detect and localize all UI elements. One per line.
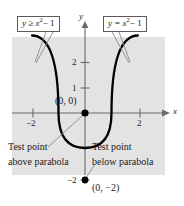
y-tick-label-neg2: −2 (67, 176, 77, 185)
test-above-caption-line1: Test point (8, 142, 48, 152)
point-origin-dot (81, 109, 88, 116)
point-zero-neg-two-dot (82, 177, 89, 184)
equation-label-tail: − 1 (130, 18, 142, 28)
x-tick-label-2: 2 (137, 119, 142, 128)
y-tick-label-2: 2 (72, 58, 77, 67)
shaded-region (12, 37, 165, 175)
x-tick-label-neg2: −2 (26, 119, 36, 128)
test-below-caption-line1: Test point (92, 142, 132, 152)
test-below-caption-line2: below parabola (92, 157, 153, 167)
test-above-caption-line2: above parabola (8, 157, 69, 167)
y-tick-label-1: 1 (72, 84, 77, 93)
y-axis-label: y (79, 12, 83, 21)
lower-point-label: (0, −2) (92, 183, 119, 193)
equation-label-box: y = x2− 1 (103, 16, 147, 32)
y-axis-arrowhead (82, 21, 89, 28)
origin-point-label: (0, 0) (55, 96, 77, 106)
equation-label-text: y = x (108, 18, 127, 28)
inequality-label-box: y ≥ x2− 1 (17, 16, 60, 32)
inequality-label-text: y ≥ x (22, 18, 39, 28)
inequality-graph-figure: y ≥ x2− 1 y = x2− 1 y x −2 2 1 2 −2 (0, … (0, 0, 184, 206)
inequality-label-tail: − 1 (43, 18, 55, 28)
x-axis-label: x (173, 107, 177, 116)
x-axis-arrowhead (162, 110, 170, 117)
